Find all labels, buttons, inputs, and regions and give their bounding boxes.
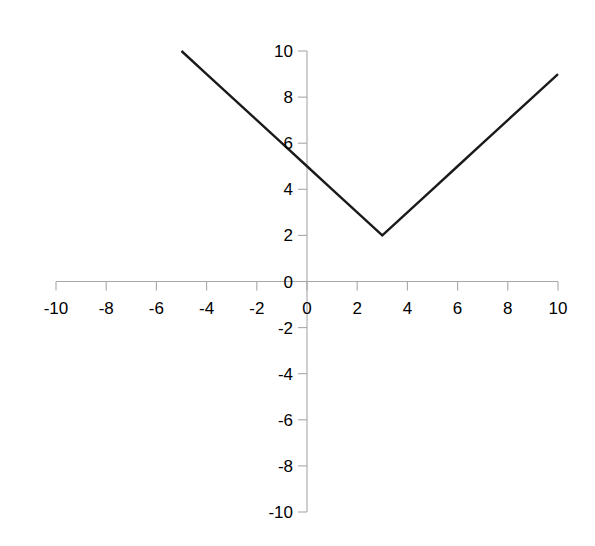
y-tick-label: 0 — [284, 273, 293, 290]
x-tick-label: -6 — [149, 300, 164, 317]
chart-plot-area — [0, 0, 595, 546]
y-tick-label: 10 — [274, 43, 293, 60]
x-tick-label: -10 — [44, 300, 69, 317]
x-tick-label: 8 — [503, 300, 512, 317]
x-tick-label: 6 — [453, 300, 462, 317]
y-tick-label: -6 — [278, 411, 293, 428]
y-tick-label: 6 — [284, 135, 293, 152]
y-tick-label: 4 — [284, 181, 293, 198]
x-tick-label: -8 — [99, 300, 114, 317]
x-tick-label: -2 — [249, 300, 264, 317]
y-tick-label: -2 — [278, 319, 293, 336]
x-tick-label: 2 — [352, 300, 361, 317]
y-tick-label: -8 — [278, 457, 293, 474]
data-series-lines — [182, 51, 559, 235]
chart-canvas: -10-8-6-4-20246810 1086420-2-4-6-8-10 — [0, 0, 595, 546]
y-tick-label: 8 — [284, 89, 293, 106]
series-line — [182, 51, 559, 235]
x-tick-label: -4 — [199, 300, 214, 317]
x-tick-label: 10 — [549, 300, 568, 317]
y-tick-label: -4 — [278, 365, 293, 382]
x-tick-label: 4 — [403, 300, 412, 317]
x-tick-label: 0 — [302, 300, 311, 317]
y-tick-label: 2 — [284, 227, 293, 244]
y-tick-label: -10 — [268, 504, 293, 521]
